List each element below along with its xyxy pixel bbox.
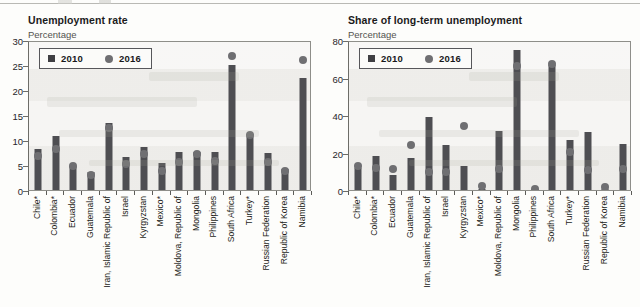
bar-2010 (496, 131, 503, 190)
marker-2016 (122, 160, 130, 168)
x-axis-tick-mark (46, 191, 47, 195)
bar-group (597, 42, 615, 190)
bar-2010 (549, 65, 556, 190)
bar-group (526, 42, 544, 190)
marker-2016 (34, 152, 42, 160)
x-axis-tick-mark (543, 191, 544, 195)
square-marker-icon (368, 55, 375, 62)
y-axis-tick-label: 40 (332, 111, 343, 122)
x-axis-category-label: Colombia* (50, 196, 59, 236)
x-axis-tick-mark (28, 191, 29, 195)
bar-group (188, 42, 206, 190)
marker-2016 (158, 167, 166, 175)
bar-group (508, 42, 526, 190)
panel-title: Unemployment rate (28, 14, 128, 26)
x-axis-tick-mark (240, 191, 241, 195)
bar-group (153, 42, 171, 190)
x-axis-category-label: Russian Federation (582, 196, 591, 271)
plot-area-left: 2010 2016 (28, 41, 311, 191)
legend-item-2016: 2016 (425, 53, 461, 64)
panel-subtitle: Percentage (348, 29, 397, 40)
x-axis-tick-mark (472, 191, 473, 195)
x-axis-tick-mark (187, 191, 188, 195)
legend-item-2016: 2016 (105, 53, 141, 64)
legend-label-2010: 2010 (61, 53, 83, 64)
marker-2016 (281, 167, 289, 175)
x-axis-category-label: Turkey* (565, 196, 574, 225)
x-axis-category-label: Moldova, Republic of (494, 196, 503, 276)
bar-group (614, 42, 631, 190)
marker-2016 (264, 158, 272, 166)
bar-group (294, 42, 311, 190)
x-axis-tick-mark (170, 191, 171, 195)
x-axis-tick-mark (401, 191, 402, 195)
marker-2016 (299, 56, 307, 64)
x-axis-tick-mark (205, 191, 206, 195)
bar-group (491, 42, 509, 190)
marker-2016 (175, 158, 183, 166)
x-axis-tick-mark (596, 191, 597, 195)
marker-2016 (69, 162, 77, 170)
bar-2010 (372, 156, 379, 190)
x-axis-tick-mark (490, 191, 491, 195)
marker-2016 (601, 183, 609, 191)
bar-group (561, 42, 579, 190)
x-axis-tick-mark (81, 191, 82, 195)
plot-area-right: 2010 2016 (348, 41, 631, 191)
y-axis-tick-label: 25 (12, 61, 23, 72)
x-axis-category-label: Chile* (33, 196, 42, 219)
marker-2016 (584, 166, 592, 174)
marker-2016 (548, 60, 556, 68)
marker-2016 (140, 150, 148, 158)
bar-group (579, 42, 597, 190)
legend-item-2010: 2010 (368, 53, 403, 64)
x-axis-tick-mark (631, 191, 632, 195)
bar-2010 (300, 78, 307, 191)
bar-group (259, 42, 277, 190)
legend-label-2016: 2016 (439, 53, 461, 64)
marker-2016 (513, 62, 521, 70)
x-axis-category-label: Mongolia (192, 196, 201, 231)
circle-marker-icon (105, 55, 113, 63)
bar-2010 (105, 123, 112, 191)
y-axis-tick-label: 20 (332, 148, 343, 159)
x-axis-category-label: Guatemala (86, 196, 95, 238)
x-axis-tick-mark (258, 191, 259, 195)
bar-group (277, 42, 295, 190)
y-axis-tick-label: 15 (12, 111, 23, 122)
legend-right: 2010 2016 (359, 48, 472, 69)
bar-2010 (460, 166, 467, 190)
x-axis-tick-mark (223, 191, 224, 195)
y-axis-right: 020406080 (320, 41, 348, 191)
x-axis-category-label: Kyrgyzstan (139, 196, 148, 239)
marker-2016 (407, 141, 415, 149)
x-axis-category-label: Namibia (618, 196, 627, 228)
x-axis-tick-mark (560, 191, 561, 195)
x-axis-category-label: Republic of Korea (280, 196, 289, 264)
marker-2016 (193, 150, 201, 158)
circle-marker-icon (425, 55, 433, 63)
marker-2016 (105, 124, 113, 132)
x-axis-category-label: Mexico* (476, 196, 485, 227)
chart-panel-unemployment-rate: Unemployment rate Percentage 05101520253… (0, 8, 320, 307)
bar-2010 (229, 65, 236, 190)
x-axis-category-label: Republic of Korea (600, 196, 609, 264)
marker-2016 (478, 182, 486, 190)
bar-group (241, 42, 259, 190)
x-axis-category-label: Turkey* (245, 196, 254, 225)
y-axis-tick-label: 80 (332, 36, 343, 47)
x-axis-category-label: Ecuador (68, 196, 77, 228)
x-axis-tick-mark (507, 191, 508, 195)
marker-2016 (425, 168, 433, 176)
marker-2016 (566, 148, 574, 156)
x-axis-category-label: South Africa (547, 196, 556, 242)
marker-2016 (460, 122, 468, 130)
marker-2016 (372, 164, 380, 172)
x-axis-labels-right: Chile*Colombia*EcuadorGuatemalaIran, Isl… (348, 196, 631, 307)
x-axis-tick-mark (419, 191, 420, 195)
figure-root: Unemployment rate Percentage 05101520253… (0, 0, 640, 307)
y-axis-tick-label: 10 (12, 136, 23, 147)
bar-group (473, 42, 491, 190)
marker-2016 (246, 131, 254, 139)
x-axis-tick-mark (134, 191, 135, 195)
